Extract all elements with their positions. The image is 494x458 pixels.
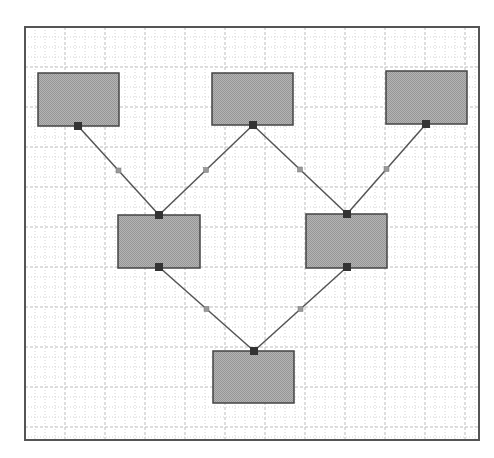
port-bottom-icon[interactable] (155, 263, 163, 271)
midpoint-handle-icon[interactable] (204, 307, 209, 312)
diagram-canvas[interactable] (0, 0, 494, 458)
edge-node-5-node-6[interactable] (254, 267, 347, 351)
port-bottom-icon[interactable] (422, 120, 430, 128)
midpoint-handle-icon[interactable] (298, 167, 303, 172)
port-bottom-icon[interactable] (74, 122, 82, 130)
midpoint-handle-icon[interactable] (298, 307, 303, 312)
edge-node-1-node-4[interactable] (78, 126, 159, 215)
node-6[interactable] (213, 347, 294, 403)
node-box[interactable] (38, 73, 119, 126)
edge-node-2-node-5[interactable] (253, 125, 347, 214)
node-box[interactable] (306, 214, 387, 268)
node-5[interactable] (306, 210, 387, 271)
nodes (38, 71, 467, 403)
node-box[interactable] (386, 71, 467, 124)
midpoint-handle-icon[interactable] (384, 167, 389, 172)
edge-node-2-node-4[interactable] (159, 125, 253, 215)
midpoint-handle-icon[interactable] (204, 168, 209, 173)
node-1[interactable] (38, 73, 119, 130)
node-4[interactable] (118, 211, 200, 271)
node-box[interactable] (212, 73, 293, 125)
port-top-icon[interactable] (250, 347, 258, 355)
port-top-icon[interactable] (343, 210, 351, 218)
node-2[interactable] (212, 73, 293, 129)
node-3[interactable] (386, 71, 467, 128)
port-bottom-icon[interactable] (343, 263, 351, 271)
edge-node-4-node-6[interactable] (159, 267, 254, 351)
port-bottom-icon[interactable] (249, 121, 257, 129)
port-top-icon[interactable] (155, 211, 163, 219)
node-box[interactable] (213, 351, 294, 403)
midpoint-handle-icon[interactable] (116, 168, 121, 173)
node-box[interactable] (118, 215, 200, 268)
